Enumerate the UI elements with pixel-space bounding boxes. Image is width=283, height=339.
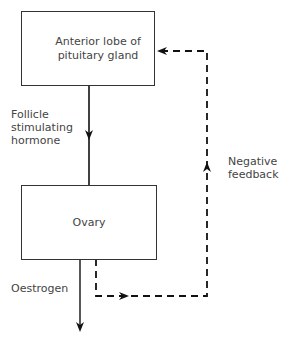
- pituitary-box: Anterior lobe of pituitary gland: [21, 11, 155, 86]
- oestrogen-label: Oestrogen: [11, 282, 68, 295]
- feedback-arrowhead-up-icon: [203, 162, 211, 172]
- feedback-label: Negative feedback: [228, 155, 279, 181]
- pituitary-label: Anterior lobe of pituitary gland: [28, 35, 148, 63]
- ovary-box: Ovary: [21, 185, 157, 260]
- ovary-label: Ovary: [73, 216, 106, 230]
- fsh-label: Follicle stimulating hormone: [11, 108, 73, 147]
